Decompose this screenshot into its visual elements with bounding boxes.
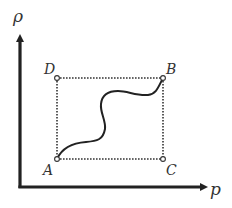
point-B-marker [161,76,166,81]
point-A-label: A [41,162,53,178]
point-C-label: C [166,162,177,178]
pressure-density-diagram: ρ p D B A C [0,0,232,208]
process-curve-A-B [57,78,163,159]
point-B-label: B [165,61,176,77]
point-D-marker [55,76,60,81]
y-axis-label: ρ [12,6,23,26]
point-D-label: D [43,61,55,77]
dotted-rectangle [57,78,163,159]
point-A-marker [55,157,60,162]
x-axis-label: p [210,179,221,199]
corner-points [55,76,166,162]
point-C-marker [161,157,166,162]
